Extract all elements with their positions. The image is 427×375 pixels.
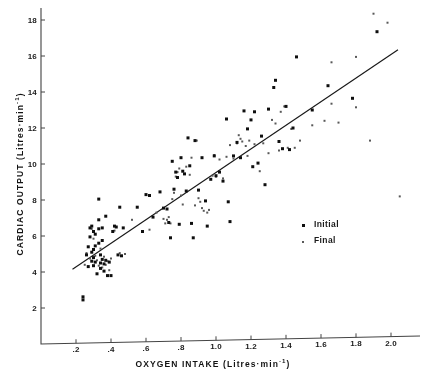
data-point (188, 164, 191, 167)
data-point (294, 147, 296, 149)
data-point (99, 267, 102, 270)
data-point (173, 188, 176, 191)
data-point (92, 256, 95, 259)
data-point (247, 155, 249, 157)
data-point (180, 195, 182, 197)
data-point (206, 212, 208, 214)
legend-label-final: Final (314, 235, 336, 245)
data-point (136, 206, 139, 209)
data-point (327, 84, 330, 87)
data-point (117, 253, 120, 256)
data-point (97, 218, 100, 221)
data-point (268, 152, 270, 154)
data-point (260, 135, 263, 138)
axis-lines (41, 8, 420, 344)
data-point (278, 140, 281, 143)
data-point (101, 239, 104, 242)
x-tick-label: .2 (72, 345, 79, 354)
x-tick-label: 2.0 (385, 339, 397, 348)
data-point (90, 260, 93, 263)
data-point (166, 208, 169, 211)
data-point (288, 148, 291, 151)
data-point (159, 190, 162, 193)
data-point (271, 119, 273, 121)
data-point (164, 222, 166, 224)
data-point (259, 170, 261, 172)
regression-line (73, 50, 399, 270)
x-tick-label: .4 (107, 345, 114, 354)
data-point (101, 258, 104, 261)
data-point (171, 198, 173, 200)
data-point (248, 140, 250, 142)
data-point (215, 174, 218, 177)
data-point (87, 245, 90, 248)
data-point (168, 216, 170, 218)
data-point (90, 225, 93, 228)
data-point (280, 111, 282, 113)
data-point (222, 180, 225, 183)
data-point (194, 139, 197, 142)
data-point (376, 30, 379, 33)
series-initial-points (82, 30, 379, 301)
data-point (92, 230, 95, 233)
data-point (187, 136, 190, 139)
data-point (110, 258, 112, 260)
data-point (236, 141, 239, 144)
data-point (185, 190, 188, 193)
data-point (257, 162, 260, 165)
data-point (351, 97, 354, 100)
data-point (206, 225, 209, 228)
data-point (99, 262, 102, 265)
data-point (241, 141, 243, 143)
data-point (192, 236, 195, 239)
data-point (311, 109, 314, 112)
data-point (190, 222, 193, 225)
x-tick-label: 1.8 (350, 339, 362, 348)
x-tick-label: 1.4 (280, 341, 292, 350)
data-point (181, 170, 184, 173)
data-point (198, 197, 200, 199)
data-point (209, 178, 212, 181)
data-point (108, 261, 111, 264)
data-point (274, 79, 277, 82)
data-point (89, 258, 91, 260)
data-point (295, 55, 298, 58)
data-point (183, 172, 186, 175)
data-point (232, 154, 235, 157)
data-point (226, 156, 228, 158)
data-point (97, 242, 100, 245)
data-point (299, 140, 301, 142)
data-point (82, 298, 85, 301)
data-point (387, 22, 389, 24)
data-point (251, 165, 254, 168)
data-point (311, 124, 313, 126)
data-point (98, 265, 100, 267)
data-point (285, 105, 288, 108)
data-point (87, 265, 90, 268)
data-point (93, 238, 95, 240)
legend-item-initial: Initial (297, 216, 339, 232)
data-point (169, 236, 172, 239)
data-point (331, 61, 333, 63)
data-point (103, 262, 106, 265)
chart-legend: Initial Final (297, 216, 339, 248)
legend-marker-final-icon (297, 235, 309, 245)
data-point (96, 272, 99, 275)
data-point (176, 176, 179, 179)
data-point (84, 264, 86, 266)
data-point (240, 138, 242, 140)
data-point (227, 200, 230, 203)
data-point (145, 193, 148, 196)
data-point (141, 230, 144, 233)
data-point (99, 253, 102, 256)
data-point (204, 199, 207, 202)
data-point (101, 226, 104, 229)
data-point (89, 235, 92, 238)
data-point (106, 274, 109, 277)
data-point (281, 147, 284, 150)
data-point (278, 150, 280, 152)
data-point (167, 221, 170, 224)
data-point (197, 189, 200, 192)
data-point (97, 227, 100, 230)
y-axis-label-tail: ) (15, 92, 25, 96)
